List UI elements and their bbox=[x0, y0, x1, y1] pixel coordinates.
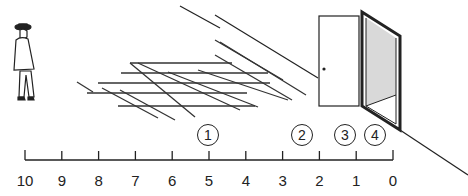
tick-label: 3 bbox=[278, 172, 286, 189]
tick-label: 1 bbox=[352, 172, 360, 189]
distance-scale bbox=[25, 150, 393, 160]
tick-label: 6 bbox=[168, 172, 176, 189]
marker-2: 2 bbox=[298, 127, 306, 143]
marker-1: 1 bbox=[204, 127, 212, 143]
tick-label: 10 bbox=[17, 172, 34, 189]
tick-label: 5 bbox=[205, 172, 213, 189]
floor-grid bbox=[77, 40, 306, 120]
tick-label: 0 bbox=[389, 172, 397, 189]
diagram-stage: 10 9 8 7 6 5 4 3 2 1 0 1 2 3 4 bbox=[0, 0, 468, 196]
tick-label: 2 bbox=[315, 172, 323, 189]
door-icon bbox=[319, 12, 400, 130]
marker-4: 4 bbox=[371, 127, 379, 143]
person-figure-icon bbox=[14, 24, 34, 100]
tick-label: 7 bbox=[131, 172, 139, 189]
tick-label: 9 bbox=[58, 172, 66, 189]
zone-markers: 1 2 3 4 bbox=[198, 125, 386, 146]
tick-label: 8 bbox=[94, 172, 102, 189]
tick-label: 4 bbox=[242, 172, 250, 189]
scale-tick-labels: 10 9 8 7 6 5 4 3 2 1 0 bbox=[17, 172, 398, 189]
marker-3: 3 bbox=[341, 127, 349, 143]
